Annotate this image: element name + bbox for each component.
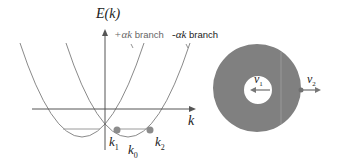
x-axis-label: k <box>188 113 194 129</box>
v2-label: v2 <box>307 72 316 88</box>
v1-label: v1 <box>254 72 263 88</box>
k2-marker <box>147 127 154 134</box>
plus-alpha-k-parabola <box>20 43 144 137</box>
k1-label: k1 <box>109 134 119 152</box>
plus-branch-label: +αk branch <box>114 28 164 40</box>
minus-branch-pointer <box>186 44 188 48</box>
x-axis-arrow-icon <box>189 106 196 112</box>
minus-alpha-k-parabola <box>66 43 190 137</box>
k0-label: k0 <box>128 142 138 160</box>
ring-diagram <box>213 44 321 132</box>
plus-branch-pointer <box>131 44 133 48</box>
dispersion-plot <box>20 29 196 150</box>
dispersion-diagram <box>0 0 337 163</box>
y-axis-arrow-icon <box>102 29 108 36</box>
y-axis-label: E(k) <box>96 6 120 22</box>
minus-branch-label: -αk branch <box>172 28 218 40</box>
k1-marker <box>114 127 121 134</box>
k2-label: k2 <box>155 134 165 152</box>
